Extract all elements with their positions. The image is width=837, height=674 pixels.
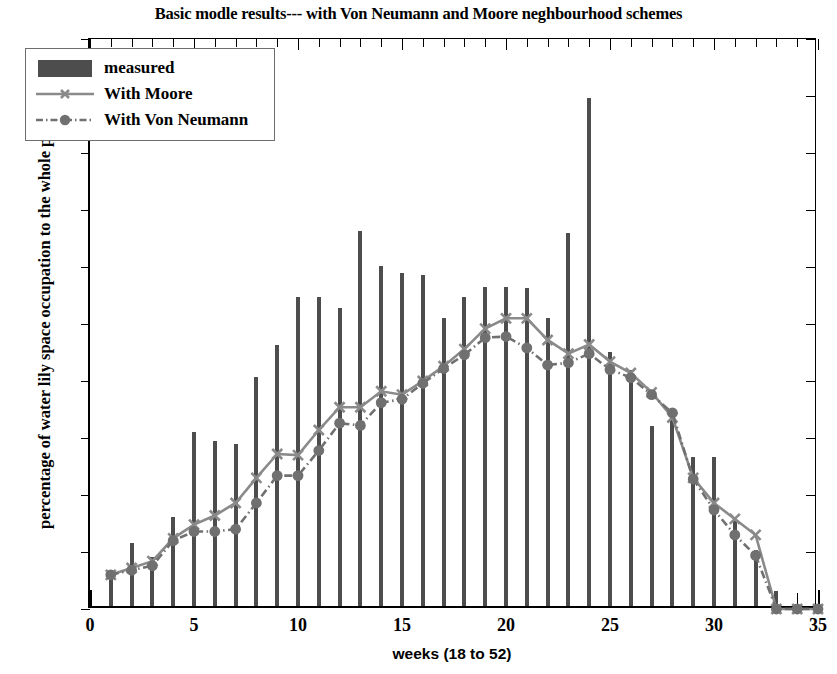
data-point-marker xyxy=(646,389,657,400)
x-axis-tick-label: 20 xyxy=(476,615,536,636)
data-point-marker xyxy=(521,343,532,354)
legend-swatch-bar-icon xyxy=(34,58,96,78)
y-axis-tick xyxy=(81,609,90,610)
x-axis-tick-label: 0 xyxy=(60,615,120,636)
x-axis-major-tick xyxy=(818,590,820,606)
data-point-marker xyxy=(480,332,491,343)
legend-item-moore: With Moore xyxy=(34,81,266,107)
data-point-marker xyxy=(334,418,345,429)
legend-label-moore: With Moore xyxy=(96,84,193,104)
data-point-marker xyxy=(189,526,200,537)
data-point-marker xyxy=(168,535,179,546)
x-axis-tick-label: 30 xyxy=(684,615,744,636)
page-title: Basic modle results--- with Von Neumann … xyxy=(0,4,837,24)
y-axis-tick xyxy=(81,552,90,553)
figure-canvas: Basic modle results--- with Von Neumann … xyxy=(0,0,837,674)
data-point-marker xyxy=(501,331,512,342)
y-axis-tick xyxy=(81,267,90,268)
legend-line-x-marker-icon xyxy=(34,84,96,104)
y-axis-tick xyxy=(81,324,90,325)
data-point-marker xyxy=(397,394,408,405)
y-axis-tick xyxy=(81,153,90,154)
data-point-marker xyxy=(417,378,428,389)
series-line xyxy=(111,337,818,609)
data-point-marker xyxy=(667,408,678,419)
x-axis-tick-label: 10 xyxy=(268,615,328,636)
legend-line-circle-marker-icon xyxy=(34,110,96,130)
x-axis-label: weeks (18 to 52) xyxy=(88,645,816,663)
data-point-marker xyxy=(126,565,137,576)
legend-item-von-neumann: With Von Neumann xyxy=(34,107,266,133)
y-axis-tick xyxy=(81,210,90,211)
legend-label-measured: measured xyxy=(96,58,175,78)
data-point-marker xyxy=(688,474,699,485)
data-point-marker xyxy=(459,349,470,360)
data-point-marker xyxy=(750,550,761,561)
data-point-marker xyxy=(584,348,595,359)
data-point-marker xyxy=(625,372,636,383)
x-axis-tick-top xyxy=(818,39,819,50)
data-point-marker xyxy=(729,530,740,541)
y-axis-tick xyxy=(81,39,90,40)
data-point-marker xyxy=(563,357,574,368)
data-point-marker xyxy=(251,498,262,509)
data-point-marker xyxy=(230,524,241,535)
data-point-marker xyxy=(813,604,824,615)
data-point-marker xyxy=(792,604,803,615)
data-point-marker xyxy=(272,470,283,481)
x-axis-tick-label: 5 xyxy=(164,615,224,636)
data-point-marker xyxy=(147,560,158,571)
x-axis-tick-label: 35 xyxy=(788,615,837,636)
data-point-marker xyxy=(376,397,387,408)
data-point-marker xyxy=(709,504,720,515)
data-point-marker xyxy=(438,363,449,374)
x-axis-tick-label: 15 xyxy=(372,615,432,636)
data-point-marker xyxy=(105,569,116,580)
chart-legend: measured With Moore With Von Neumann xyxy=(25,48,275,141)
data-point-marker xyxy=(605,364,616,375)
legend-label-von-neumann: With Von Neumann xyxy=(96,110,248,130)
data-point-marker xyxy=(313,445,324,456)
data-point-marker xyxy=(293,470,304,481)
data-point-marker xyxy=(542,360,553,371)
data-point-marker xyxy=(771,604,782,615)
y-axis-tick xyxy=(81,438,90,439)
data-point-marker xyxy=(355,420,366,431)
legend-item-measured: measured xyxy=(34,55,266,81)
data-point-marker xyxy=(209,526,220,537)
x-axis-tick-label: 25 xyxy=(580,615,640,636)
y-axis-tick xyxy=(81,495,90,496)
y-axis-tick xyxy=(81,381,90,382)
